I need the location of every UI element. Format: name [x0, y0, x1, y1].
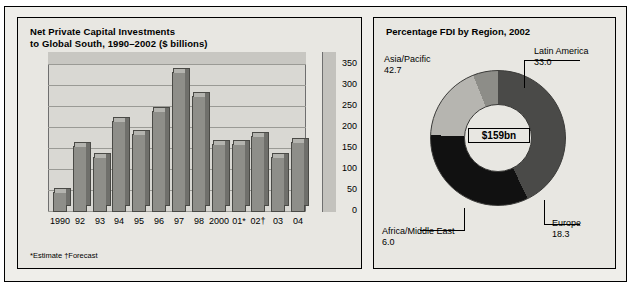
y-axis-tick: 300 [327, 79, 357, 89]
bar-side-face [304, 138, 309, 206]
donut-chart: $159bn [430, 70, 566, 206]
bar [152, 111, 166, 212]
pie-label-asia-pacific-name: Asia/Pacific [384, 54, 431, 65]
bar-side-face [185, 68, 190, 206]
bar [172, 72, 186, 212]
bar [212, 144, 226, 212]
bar [132, 134, 146, 212]
bar-series [48, 64, 306, 212]
bar-side-face [284, 153, 289, 206]
bar [112, 121, 126, 212]
bar-side-face [125, 117, 130, 206]
pie-label-asia-pacific: Asia/Pacific 42.7 [384, 54, 431, 76]
bar-chart-title-line1: Net Private Capital Investments [30, 26, 208, 38]
bar-plot-area: 350 300 250 200 150 100 50 0 19909293949… [48, 64, 323, 224]
bar [271, 157, 285, 212]
bar-side-face [205, 92, 210, 206]
bar [251, 136, 265, 212]
bar [232, 144, 246, 212]
bar-side-face [225, 140, 230, 206]
bar [93, 157, 107, 212]
bar-chart-title-line2: to Global South, 1990–2002 ($ billions) [30, 38, 208, 50]
pie-chart-title: Percentage FDI by Region, 2002 [386, 26, 530, 37]
y-axis-tick: 50 [327, 184, 357, 194]
x-axis-tick: 04 [281, 216, 315, 226]
bar-side-face [245, 140, 250, 206]
pie-label-africa-middle-east-name: Africa/Middle East [382, 226, 455, 237]
chart-footnote: *Estimate †Forecast [30, 251, 98, 260]
y-axis-tick: 200 [327, 121, 357, 131]
donut-center-label: $159bn [468, 128, 530, 143]
bar-side-face [106, 153, 111, 206]
pie-label-latin-america: Latin America 33.0 [534, 46, 589, 68]
bar-chart-panel: Net Private Capital Investments to Globa… [17, 17, 362, 269]
y-axis-tick: 150 [327, 142, 357, 152]
y-axis-tick: 100 [327, 163, 357, 173]
pie-label-europe: Europe 18.3 [552, 218, 581, 240]
leader-line-europe-drop [544, 200, 545, 225]
bar [73, 146, 87, 212]
pie-label-africa-middle-east: Africa/Middle East 6.0 [382, 226, 455, 248]
pie-label-europe-name: Europe [552, 218, 581, 229]
y-axis-tick: 250 [327, 100, 357, 110]
y-axis-tick: 350 [327, 58, 357, 68]
bar [192, 96, 206, 212]
pie-label-latin-america-value: 33.0 [534, 57, 589, 68]
figure-frame: Net Private Capital Investments to Globa… [4, 6, 627, 282]
plot-top-face [48, 52, 306, 64]
bar [53, 192, 67, 212]
pie-label-africa-middle-east-value: 6.0 [382, 237, 455, 248]
pie-label-europe-value: 18.3 [552, 229, 581, 240]
pie-label-asia-pacific-value: 42.7 [384, 65, 431, 76]
bar-chart-title: Net Private Capital Investments to Globa… [30, 26, 208, 50]
bar-side-face [86, 142, 91, 206]
leader-line-africa-drop [464, 208, 465, 231]
pie-label-latin-america-name: Latin America [534, 46, 589, 57]
bar-side-face [264, 132, 269, 206]
y-axis-tick: 0 [327, 205, 357, 215]
bar [291, 142, 305, 212]
bar-side-face [145, 130, 150, 206]
bar-side-face [165, 107, 170, 206]
leader-line-latin-america-drop [524, 60, 525, 88]
pie-chart-panel: Percentage FDI by Region, 2002 $159bn As… [373, 17, 616, 269]
bar-side-face [66, 188, 71, 206]
